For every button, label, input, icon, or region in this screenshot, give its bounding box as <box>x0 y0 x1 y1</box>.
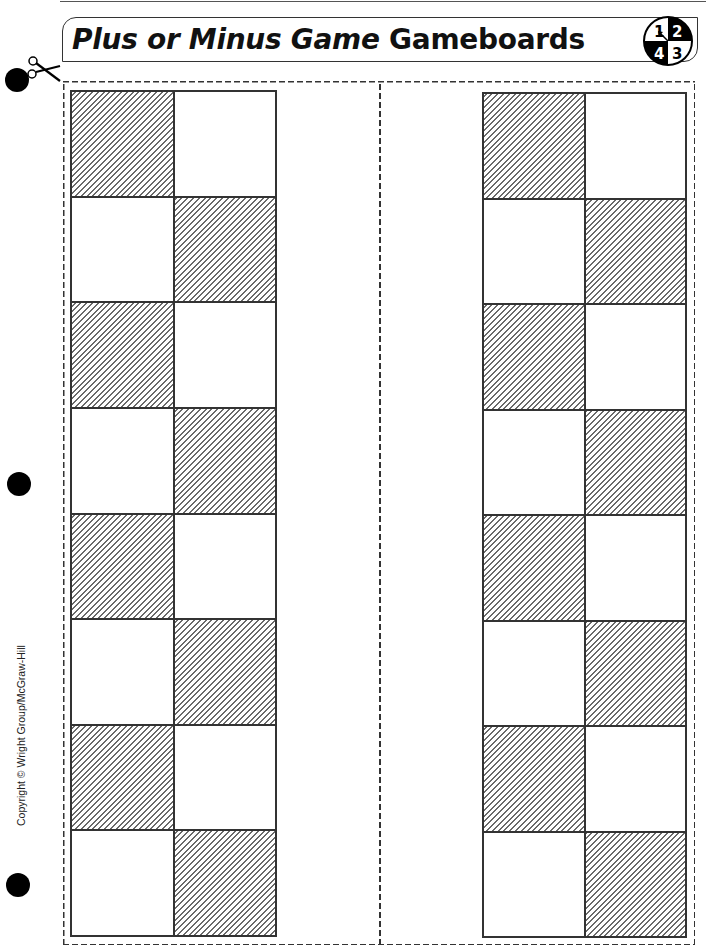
board-cell-plain <box>174 725 277 831</box>
board-cell-hatched <box>174 830 277 936</box>
board-cell-hatched <box>585 199 687 305</box>
board-cell-hatched <box>483 726 585 832</box>
board-cell-plain <box>483 832 585 938</box>
board-cell-hatched <box>174 197 277 303</box>
board-cell-plain <box>174 302 277 408</box>
board-cell-plain <box>174 514 277 620</box>
board-cell-hatched <box>585 832 687 938</box>
board-cell-hatched <box>71 514 174 620</box>
board-cell-plain <box>71 197 174 303</box>
page-title: Plus or Minus Game Gameboards <box>72 22 585 58</box>
board-cell-plain <box>483 621 585 727</box>
hole-punch-icon <box>6 873 30 897</box>
title-italic: Plus or Minus Game <box>72 23 380 56</box>
board-cell-plain <box>174 91 277 197</box>
board-cell-hatched <box>71 91 174 197</box>
board-cell-hatched <box>71 302 174 408</box>
spinner-icon: 1 2 3 4 <box>642 15 694 67</box>
board-cell-hatched <box>174 408 277 514</box>
board-cell-plain <box>585 93 687 199</box>
svg-text:3: 3 <box>672 45 682 63</box>
board-cell-hatched <box>71 725 174 831</box>
copyright-notice: Copyright © Wright Group/McGraw-Hill <box>15 645 27 826</box>
board-cell-plain <box>585 304 687 410</box>
scissors-icon <box>26 55 62 87</box>
gameboard-right <box>482 92 687 938</box>
title-regular: Gameboards <box>389 23 585 56</box>
board-cell-plain <box>585 726 687 832</box>
svg-text:4: 4 <box>654 45 664 63</box>
board-cell-plain <box>483 410 585 516</box>
board-cell-plain <box>71 619 174 725</box>
hole-punch-icon <box>7 472 31 496</box>
board-cell-hatched <box>483 304 585 410</box>
board-cell-plain <box>585 515 687 621</box>
board-cell-hatched <box>585 621 687 727</box>
top-rule <box>60 1 706 2</box>
board-cell-hatched <box>585 410 687 516</box>
board-cell-hatched <box>483 93 585 199</box>
board-cell-plain <box>71 830 174 936</box>
gameboard-left <box>70 90 277 937</box>
center-cut-line <box>379 81 381 945</box>
board-cell-hatched <box>174 619 277 725</box>
board-cell-plain <box>483 199 585 305</box>
board-cell-plain <box>71 408 174 514</box>
svg-text:2: 2 <box>672 23 682 41</box>
board-cell-hatched <box>483 515 585 621</box>
